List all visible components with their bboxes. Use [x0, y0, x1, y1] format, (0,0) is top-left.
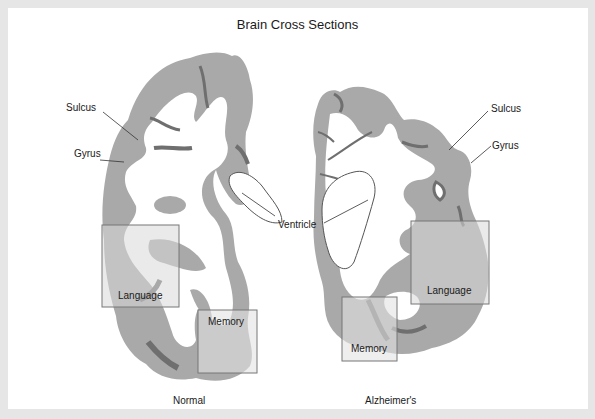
right-sulcus-label: Sulcus	[491, 103, 521, 114]
brain-illustration	[0, 0, 595, 419]
normal-language-label: Language	[118, 290, 163, 301]
alzheimers-memory-label: Memory	[351, 343, 387, 354]
left-gyrus-label: Gyrus	[74, 148, 101, 159]
ventricle-label: Ventricle	[278, 219, 316, 230]
left-sulcus-label: Sulcus	[66, 102, 96, 113]
right-gyrus-label: Gyrus	[492, 140, 519, 151]
alzheimers-caption: Alzheimer's	[365, 395, 416, 406]
alzheimers-brain-section	[313, 87, 488, 354]
alzheimers-language-label: Language	[427, 285, 472, 296]
normal-caption: Normal	[173, 395, 205, 406]
normal-memory-label: Memory	[208, 316, 244, 327]
right-gyrus-leader-line	[471, 146, 491, 163]
right-sulcus-leader-line	[449, 111, 488, 150]
